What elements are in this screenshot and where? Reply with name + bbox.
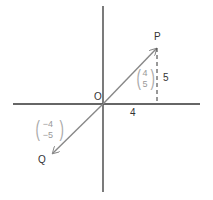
origin-label: O	[94, 92, 102, 102]
horizontal-component-label: 4	[130, 108, 136, 118]
point-p-label: P	[154, 32, 161, 42]
vector-oq-bottom: −5	[37, 131, 59, 140]
vertical-component-label: 5	[163, 73, 169, 83]
point-q-label: Q	[38, 155, 46, 165]
vector-diagram	[0, 0, 213, 200]
vector-oq-top: −4	[37, 120, 59, 129]
right-paren-icon: )	[59, 118, 63, 140]
right-paren-icon: )	[150, 67, 154, 89]
